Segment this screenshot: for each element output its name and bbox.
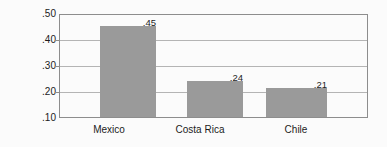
x-tick-label-chile: Chile (251, 124, 341, 136)
bar-chart-figure: Proportion Trusting .50 .40 .30 .20 .10 … (0, 0, 387, 147)
y-tick-label: .10 (30, 113, 56, 123)
bar-value-label-chile: .21 (287, 80, 327, 90)
bar-chile[interactable] (266, 88, 327, 117)
y-tick-label: .30 (30, 61, 56, 71)
plot-area: .45 .24 .21 (59, 14, 368, 118)
bar-value-label-mexico: .45 (116, 18, 156, 28)
y-tick-label: .40 (30, 35, 56, 45)
y-tick-label: .20 (30, 87, 56, 97)
x-tick-label-costa-rica: Costa Rica (155, 124, 245, 136)
bar-mexico[interactable] (100, 26, 156, 117)
y-tick-label: .50 (30, 9, 56, 19)
x-tick-label-mexico: Mexico (69, 124, 149, 136)
bar-value-label-costa-rica: .24 (203, 73, 243, 83)
bar-costa-rica[interactable] (187, 81, 243, 117)
